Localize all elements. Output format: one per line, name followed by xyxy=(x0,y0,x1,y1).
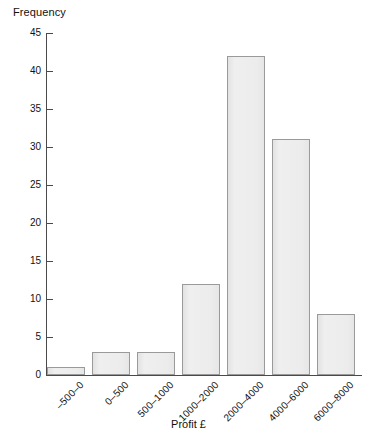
bar xyxy=(317,314,355,375)
bar xyxy=(182,284,220,375)
plot-area: 051015202530354045 –500–00–500500–100010… xyxy=(0,0,377,448)
y-axis-tick xyxy=(47,299,53,300)
y-axis-tick xyxy=(47,33,53,34)
y-axis-tick-label: 20 xyxy=(13,218,41,228)
y-axis-tick xyxy=(47,337,53,338)
x-axis-tick-label: 6000–8000 xyxy=(311,379,355,423)
y-axis-tick-label: 0 xyxy=(13,370,41,380)
y-axis-tick xyxy=(47,71,53,72)
x-axis-tick-label: 1000–2000 xyxy=(176,379,220,423)
y-axis-tick-label: 25 xyxy=(13,180,41,190)
x-axis-title: Profit £ xyxy=(0,418,377,431)
y-axis-tick xyxy=(47,109,53,110)
y-axis-tick xyxy=(47,261,53,262)
bar xyxy=(227,56,265,375)
y-axis-line xyxy=(46,33,47,376)
x-axis-tick-label: 4000–6000 xyxy=(266,379,310,423)
y-axis-tick xyxy=(47,375,53,376)
y-axis-tick xyxy=(47,185,53,186)
y-axis-tick-label: 30 xyxy=(13,142,41,152)
x-axis-tick-label: 0–500 xyxy=(103,379,131,407)
bar xyxy=(137,352,175,375)
bar xyxy=(272,139,310,375)
y-axis-tick xyxy=(47,147,53,148)
x-axis-line xyxy=(46,375,362,376)
y-axis-tick-label: 45 xyxy=(13,28,41,38)
x-axis-tick-label: 2000–4000 xyxy=(221,379,265,423)
y-axis-tick-label: 15 xyxy=(13,256,41,266)
bar xyxy=(47,367,85,375)
x-axis-tick-label: –500–0 xyxy=(54,379,86,411)
y-axis-tick-label: 5 xyxy=(13,332,41,342)
y-axis-tick xyxy=(47,223,53,224)
histogram-chart: Frequency 051015202530354045 –500–00–500… xyxy=(0,0,377,448)
y-axis-tick-label: 35 xyxy=(13,104,41,114)
y-axis-tick-label: 10 xyxy=(13,294,41,304)
x-axis-tick-label: 500–1000 xyxy=(135,379,175,419)
bar xyxy=(92,352,130,375)
y-axis-tick-label: 40 xyxy=(13,66,41,76)
